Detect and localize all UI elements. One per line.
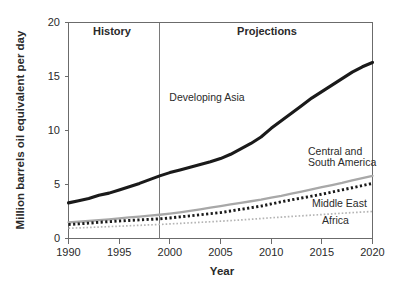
- line-chart: 20 15 10 5 0 1990 1995 2000 2005 2010 20…: [0, 0, 395, 295]
- y-tick-label-10: 10: [48, 124, 60, 136]
- x-axis-title: Year: [210, 265, 235, 277]
- period-label-projections: Projections: [237, 25, 297, 37]
- y-tick-label-20: 20: [48, 16, 60, 28]
- x-tick-label-2000: 2000: [158, 246, 182, 258]
- y-axis-ticks: [65, 23, 69, 239]
- y-tick-label-5: 5: [54, 178, 60, 190]
- x-tick-label-1990: 1990: [56, 246, 80, 258]
- y-tick-label-0: 0: [54, 232, 60, 244]
- x-tick-label-2015: 2015: [310, 246, 334, 258]
- series-line-developing-asia: [69, 62, 373, 202]
- x-tick-label-2010: 2010: [259, 246, 283, 258]
- series-label-south-america: South America: [308, 156, 376, 168]
- y-tick-label-15: 15: [48, 70, 60, 82]
- period-label-history: History: [93, 25, 132, 37]
- series-label-africa: Africa: [322, 214, 349, 226]
- x-tick-label-2005: 2005: [208, 246, 232, 258]
- x-tick-label-1995: 1995: [107, 246, 131, 258]
- series-label-developing-asia: Developing Asia: [169, 91, 244, 103]
- x-axis-ticks: [69, 239, 373, 244]
- y-axis-title: Million barrels oil equivalent per day: [14, 30, 26, 229]
- x-tick-label-2020: 2020: [360, 246, 384, 258]
- chart-figure: 20 15 10 5 0 1990 1995 2000 2005 2010 20…: [0, 0, 395, 295]
- series-label-middle-east: Middle East: [312, 197, 367, 209]
